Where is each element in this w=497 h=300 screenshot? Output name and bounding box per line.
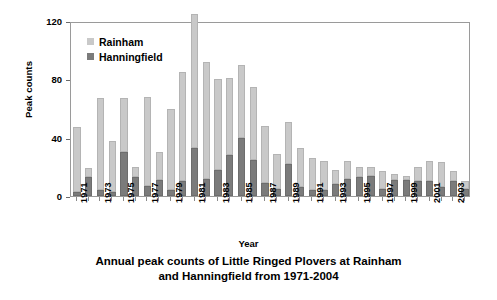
x-tick-mark	[370, 197, 371, 201]
x-tick-mark	[123, 197, 124, 201]
bar-group	[250, 87, 257, 196]
bar-segment-rainham	[285, 122, 292, 164]
x-tick-mark	[264, 197, 265, 201]
legend: Rainham Hanningfield	[87, 34, 163, 64]
x-tick-mark	[405, 197, 406, 201]
bar-segment-rainham	[344, 161, 351, 179]
x-tick-mark	[323, 197, 324, 201]
chart-title-line-1: Annual peak counts of Little Ringed Plov…	[0, 254, 497, 269]
bar-segment-rainham	[97, 98, 104, 190]
x-tick-mark	[417, 197, 418, 201]
bar-group	[226, 78, 233, 196]
x-tick-mark	[382, 197, 383, 201]
bar-segment-rainham	[167, 109, 174, 191]
bar-segment-rainham	[226, 78, 233, 155]
bar-group	[144, 97, 151, 196]
bar-segment-rainham	[132, 167, 139, 177]
chart-title: Annual peak counts of Little Ringed Plov…	[0, 254, 497, 284]
x-tick-mark	[99, 197, 100, 201]
bar-group	[214, 79, 221, 196]
bar-segment-rainham	[214, 79, 221, 169]
x-tick-mark	[394, 197, 395, 201]
bar-segment-rainham	[120, 98, 127, 152]
bar-segment-rainham	[144, 97, 151, 186]
bar-segment-rainham	[85, 168, 92, 177]
x-tick-mark	[335, 197, 336, 201]
bar-group	[179, 72, 186, 196]
x-tick-mark	[217, 197, 218, 201]
chart-figure: Peak counts 04080120 Rainham Hanningfiel…	[0, 0, 497, 300]
bar-segment-rainham	[250, 87, 257, 160]
bar-segment-rainham	[238, 65, 245, 138]
bar-segment-rainham	[356, 167, 363, 177]
bar-segment-rainham	[179, 72, 186, 181]
x-tick-mark	[146, 197, 147, 201]
y-tick-label: 120	[34, 17, 62, 27]
x-tick-mark	[241, 197, 242, 201]
bar-segment-rainham	[426, 161, 433, 181]
bar-segment-rainham	[414, 167, 421, 182]
legend-swatch-hanningfield	[87, 53, 94, 60]
y-tick-label: 0	[34, 192, 62, 202]
x-tick-mark	[111, 197, 112, 201]
x-tick-mark	[358, 197, 359, 201]
y-tick-label: 80	[34, 75, 62, 85]
legend-label-rainham: Rainham	[99, 36, 143, 48]
x-tick-mark	[88, 197, 89, 201]
x-tick-mark	[194, 197, 195, 201]
bar-group	[191, 14, 198, 196]
x-tick-mark	[76, 197, 77, 201]
bar-segment-rainham	[156, 152, 163, 180]
x-tick-mark	[158, 197, 159, 201]
y-tick-mark	[66, 197, 70, 198]
x-tick-mark	[252, 197, 253, 201]
bar-group	[203, 62, 210, 196]
x-tick-mark	[135, 197, 136, 201]
legend-swatch-rainham	[87, 38, 94, 45]
x-tick-mark	[276, 197, 277, 201]
bar-group	[238, 65, 245, 196]
bar-segment-rainham	[191, 14, 198, 148]
x-tick-mark	[311, 197, 312, 201]
x-axis-title: Year	[0, 238, 497, 249]
x-tick-mark	[170, 197, 171, 201]
legend-label-hanningfield: Hanningfield	[99, 51, 163, 63]
x-tick-mark	[205, 197, 206, 201]
x-tick-mark	[429, 197, 430, 201]
x-tick-mark	[441, 197, 442, 201]
y-axis-title: Peak counts	[23, 35, 34, 145]
legend-item-hanningfield: Hanningfield	[87, 49, 163, 64]
plot-area: Rainham Hanningfield	[70, 22, 470, 197]
bar-segment-rainham	[367, 167, 374, 176]
bar-segment-rainham	[203, 62, 210, 179]
legend-item-rainham: Rainham	[87, 34, 163, 49]
bar-segment-rainham	[450, 171, 457, 181]
x-tick-mark	[288, 197, 289, 201]
chart-title-line-2: and Hanningfield from 1971-2004	[0, 269, 497, 284]
x-tick-mark	[182, 197, 183, 201]
x-tick-mark	[346, 197, 347, 201]
x-tick-mark	[464, 197, 465, 201]
y-tick-label: 40	[34, 134, 62, 144]
x-tick-mark	[299, 197, 300, 201]
x-tick-mark	[452, 197, 453, 201]
x-tick-mark	[229, 197, 230, 201]
bar-segment-rainham	[261, 126, 268, 183]
